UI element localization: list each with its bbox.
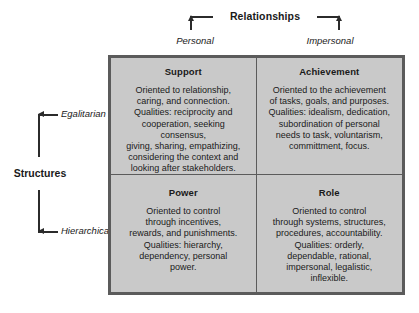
quadrant-power: Power Oriented to control through incent… <box>111 175 257 292</box>
horizontal-axis-group: Relationships Personal Impersonal <box>160 10 370 56</box>
arrow-up-right-icon <box>336 15 342 21</box>
vertical-axis-label-hierarchical: Hierarchical <box>61 225 111 236</box>
axis-stem-lower <box>38 190 40 232</box>
vertical-axis-group: Structures Egalitarian Hierarchical <box>4 108 108 244</box>
horizontal-axis-label-personal: Personal <box>160 35 230 46</box>
horizontal-axis-label-impersonal: Impersonal <box>290 35 370 46</box>
axis-line-horizontal-left <box>191 16 213 18</box>
quadrant-support-body: Oriented to relationship, caring, and co… <box>118 85 249 175</box>
quadrant-power-body: Oriented to control through incentives, … <box>118 206 249 273</box>
quadrant-achievement: Achievement Oriented to the achievement … <box>257 58 403 175</box>
quadrant-role: Role Oriented to control through systems… <box>257 175 403 292</box>
vertical-axis-title: Structures <box>4 167 76 179</box>
quadrant-support-title: Support <box>118 66 249 77</box>
arrow-up-left-icon <box>188 15 194 21</box>
quadrant-role-body: Oriented to control through systems, str… <box>264 206 396 284</box>
quadrant-matrix: Support Oriented to relationship, caring… <box>108 55 405 295</box>
quadrant-power-title: Power <box>118 187 249 198</box>
horizontal-axis-title: Relationships <box>210 10 320 22</box>
arrow-left-bottom-icon <box>38 228 44 234</box>
quadrant-achievement-title: Achievement <box>264 66 396 77</box>
vertical-axis-label-egalitarian: Egalitarian <box>61 108 106 119</box>
axis-stem-upper <box>38 115 40 157</box>
diagram-canvas: Relationships Personal Impersonal Struct… <box>0 0 419 313</box>
arrow-left-top-icon <box>38 111 44 117</box>
quadrant-role-title: Role <box>264 187 396 198</box>
quadrant-achievement-body: Oriented to the achievement of tasks, go… <box>264 85 396 152</box>
quadrant-support: Support Oriented to relationship, caring… <box>111 58 257 175</box>
